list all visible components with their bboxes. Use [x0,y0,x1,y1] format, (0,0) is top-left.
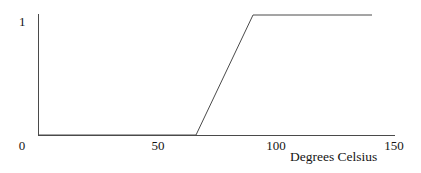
x-axis-tick-label-100: 100 [266,139,286,152]
x-axis-tick-label-50: 50 [152,139,165,152]
membership-function-curve [38,15,372,135]
x-axis-tick-label-0: 0 [19,139,26,152]
x-axis-title: Degrees Celsius [290,150,377,164]
x-axis-tick-label-150: 150 [384,139,404,152]
plot-area [0,0,421,173]
chart-figure: 1 0 50 100 150 Degrees Celsius [0,0,421,173]
y-axis-tick-label-1: 1 [19,15,26,28]
